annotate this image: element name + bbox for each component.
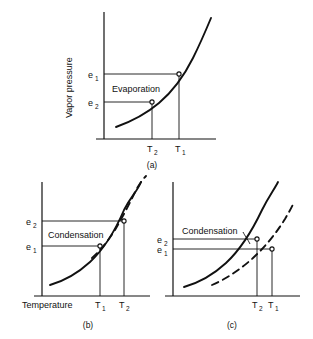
panel-a-state-point-2 (150, 100, 154, 104)
panel-a-t1-base: T (175, 144, 181, 154)
panel-b-x-axis-label: Temperature (22, 300, 73, 310)
panel-a-t1-label: T 1 (175, 144, 186, 156)
panel-b-e2-subscript: 2 (33, 222, 37, 229)
panel-a-e1-subscript: 1 (95, 75, 99, 82)
panel-a-saturation-curve (116, 18, 211, 127)
panel-a: Vapor pressure e 1 e 2 Evaporation (64, 12, 216, 170)
panel-a-e2-label: e 2 (88, 98, 99, 110)
panel-b: e 2 e 1 Condensation Temperature T 1 T 2… (22, 176, 150, 330)
panel-a-e2-subscript: 2 (95, 103, 99, 110)
panel-c-state-point-1 (270, 247, 274, 251)
panel-a-state-point-1 (177, 72, 181, 76)
panel-c-e2-subscript: 2 (164, 240, 168, 247)
panel-b-t1-base: T (95, 300, 101, 310)
panel-b-t1-subscript: 1 (102, 305, 106, 312)
panel-b-caption: (b) (83, 320, 94, 330)
panel-b-state-point-2 (122, 219, 126, 223)
panel-a-e1-base: e (88, 70, 93, 80)
panel-a-t2-label: T 2 (147, 144, 158, 156)
panel-a-e1-label: e 1 (88, 70, 99, 82)
panel-c-t1-subscript: 1 (275, 305, 279, 312)
panel-c-t2-label: T 2 (252, 300, 263, 312)
panel-b-state-point-1 (98, 244, 102, 248)
panel-c-e1-subscript: 1 (164, 250, 168, 257)
panel-b-e1-subscript: 1 (33, 247, 37, 254)
panel-b-t2-subscript: 2 (126, 305, 130, 312)
panel-b-t1-label: T 1 (95, 300, 106, 312)
panel-c-t1-label: T 1 (268, 300, 279, 312)
panel-c-e1-base: e (157, 245, 162, 255)
panel-b-t2-label: T 2 (119, 300, 130, 312)
panel-b-process-label: Condensation (48, 230, 104, 240)
panel-a-e2-base: e (88, 98, 93, 108)
panel-a-process-label: Evaporation (112, 84, 160, 94)
panel-c-process-label: Condensation (182, 226, 238, 236)
panel-b-e1-label: e 1 (26, 242, 37, 254)
panel-b-e1-base: e (26, 242, 31, 252)
panel-a-caption: (a) (147, 160, 158, 170)
panel-c-caption: (c) (227, 320, 237, 330)
figure-vapor-pressure-diagrams: Vapor pressure e 1 e 2 Evaporation (0, 0, 313, 339)
panel-a-y-axis-label: Vapor pressure (64, 57, 74, 118)
panel-c-t2-base: T (252, 300, 258, 310)
panel-a-t1-subscript: 1 (182, 149, 186, 156)
panel-b-t2-base: T (119, 300, 125, 310)
panel-b-e2-base: e (26, 217, 31, 227)
panel-c-t2-subscript: 2 (259, 305, 263, 312)
panel-c-shifted-curve (212, 202, 294, 285)
panel-c-t1-base: T (268, 300, 274, 310)
panel-c-state-point-2 (255, 237, 259, 241)
panel-b-e2-label: e 2 (26, 217, 37, 229)
panel-c: e 2 e 1 Condensation T 2 T 1 (c) (157, 182, 300, 330)
panel-a-t2-subscript: 2 (154, 149, 158, 156)
panel-a-t2-base: T (147, 144, 153, 154)
panel-c-e2-base: e (157, 235, 162, 245)
